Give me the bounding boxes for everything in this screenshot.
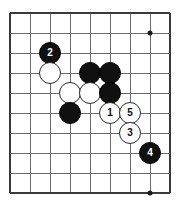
- grid-line-horizontal-2: [10, 53, 170, 54]
- stone-black-d[interactable]: [59, 102, 81, 124]
- stone-white-5[interactable]: 5: [119, 102, 141, 124]
- stone-label: 2: [47, 48, 53, 58]
- grid-line-vertical-1: [30, 13, 31, 193]
- stone-label: 5: [127, 108, 133, 118]
- stone-white-c[interactable]: [79, 82, 101, 104]
- stone-black-4[interactable]: 4: [139, 142, 161, 164]
- stone-black-b[interactable]: [99, 62, 121, 84]
- star-point-lower-right: [148, 191, 153, 196]
- stone-label: 3: [127, 128, 133, 138]
- grid-line-vertical-7: [150, 13, 151, 193]
- grid-line-vertical-0: [9, 13, 11, 193]
- grid-line-vertical-2: [50, 13, 51, 193]
- stone-white-1[interactable]: 1: [99, 102, 121, 124]
- stone-white-3[interactable]: 3: [119, 122, 141, 144]
- stone-black-2[interactable]: 2: [39, 42, 61, 64]
- stone-black-a[interactable]: [79, 62, 101, 84]
- grid-line-horizontal-8: [10, 173, 170, 174]
- grid-line-horizontal-6: [10, 133, 170, 134]
- stone-black-c[interactable]: [99, 82, 121, 104]
- star-point-upper-right: [148, 31, 153, 36]
- grid-line-horizontal-5: [10, 113, 170, 114]
- grid-line-horizontal-1: [10, 33, 170, 34]
- grid-line-horizontal-0: [10, 12, 170, 14]
- stone-label: 1: [107, 108, 113, 118]
- stone-white-a[interactable]: [39, 62, 61, 84]
- stone-label: 4: [147, 148, 153, 158]
- grid-line-vertical-8: [169, 13, 171, 193]
- grid-line-horizontal-9: [10, 192, 170, 194]
- stone-white-b[interactable]: [59, 82, 81, 104]
- go-board[interactable]: 21534: [0, 0, 180, 210]
